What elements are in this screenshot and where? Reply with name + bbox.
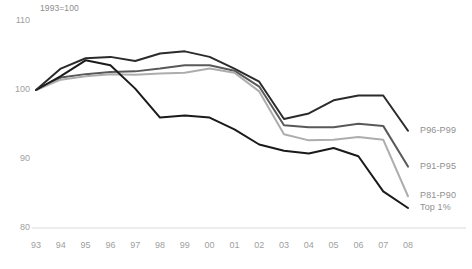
line-chart: 1993=100 8090100110 93949596979899000102…: [0, 0, 472, 269]
x-axis-tick-04: 04: [297, 240, 321, 250]
series-lines: [36, 51, 408, 208]
x-axis-tick-98: 98: [148, 240, 172, 250]
x-axis-tick-96: 96: [98, 240, 122, 250]
series-label-p91-p95: P91-P95: [420, 161, 456, 171]
series-label-p96-p99: P96-P99: [420, 125, 456, 135]
y-axis-tick-90: 90: [2, 153, 30, 163]
x-axis-tick-99: 99: [173, 240, 197, 250]
series-label-top-1: Top 1%: [420, 202, 451, 212]
x-axis-tick-05: 05: [322, 240, 346, 250]
x-axis-tick-94: 94: [49, 240, 73, 250]
x-axis-tick-97: 97: [123, 240, 147, 250]
x-axis-tick-01: 01: [222, 240, 246, 250]
x-axis-tick-06: 06: [346, 240, 370, 250]
x-axis-tick-03: 03: [272, 240, 296, 250]
x-axis-tick-07: 07: [371, 240, 395, 250]
x-axis-tick-95: 95: [74, 240, 98, 250]
series-line-p96-p99: [36, 51, 408, 130]
chart-plot-area: [0, 0, 472, 269]
x-axis-tick-00: 00: [198, 240, 222, 250]
y-axis-tick-110: 110: [2, 15, 30, 25]
series-line-top-1: [36, 60, 408, 208]
x-axis-tick-08: 08: [396, 240, 420, 250]
series-line-p91-p95: [36, 65, 408, 166]
series-label-p81-p90: P81-P90: [420, 190, 456, 200]
series-line-p81-p90: [36, 69, 408, 197]
y-axis-tick-100: 100: [2, 84, 30, 94]
x-axis-tick-02: 02: [247, 240, 271, 250]
index-note: 1993=100: [40, 3, 79, 13]
y-axis-tick-80: 80: [2, 222, 30, 232]
x-axis-tick-93: 93: [24, 240, 48, 250]
